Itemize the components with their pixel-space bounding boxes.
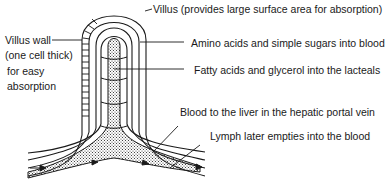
label-amino-acids: Amino acids and simple sugars into blood xyxy=(191,37,385,49)
label-villus-wall-thickness: (one cell thick) xyxy=(5,49,73,61)
label-blood-portal-vein: Blood to the liver in the hepatic portal… xyxy=(180,106,375,118)
label-villus: Villus (provides large surface area for … xyxy=(153,3,382,15)
label-villus-wall: Villus wall xyxy=(5,34,51,46)
label-villus-wall-absorption: absorption xyxy=(7,80,56,92)
label-villus-wall-purpose: for easy xyxy=(7,65,44,77)
label-lymph: Lymph later empties into the blood xyxy=(210,130,370,142)
label-fatty-acids: Fatty acids and glycerol into the lactea… xyxy=(194,64,380,76)
